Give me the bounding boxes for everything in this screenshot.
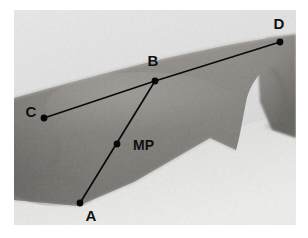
photograph-plate: ABCDMP: [14, 10, 296, 225]
landmark-label-c: C: [26, 103, 37, 120]
landmark-point-a: [77, 200, 84, 207]
landmark-label-b: B: [148, 52, 159, 69]
landmark-label-d: D: [274, 15, 285, 32]
photo-content: ABCDMP: [14, 10, 296, 225]
landmark-point-d: [277, 39, 284, 46]
film-grain-coarse: [14, 10, 296, 225]
landmark-label-mp: MP: [133, 137, 154, 153]
landmark-label-a: A: [86, 207, 97, 224]
landmark-point-c: [41, 115, 48, 122]
landmark-point-b: [152, 78, 159, 85]
figure-root: ABCDMP: [0, 0, 308, 238]
photograph-canvas: ABCDMP: [14, 10, 296, 225]
landmark-point-mp: [114, 141, 121, 148]
